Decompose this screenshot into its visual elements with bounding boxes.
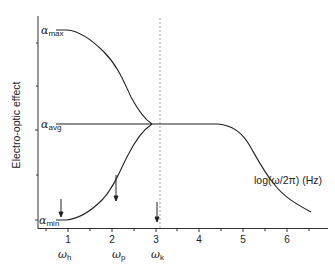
y-axis-label: Electro-optic effect (10, 82, 22, 169)
axes: 1 2 3 4 5 6 (35, 16, 328, 245)
alpha-avg-label: αavg (41, 118, 61, 132)
x-tick-1: 1 (65, 234, 71, 245)
x-tick-4: 4 (196, 234, 202, 245)
x-tick-3: 3 (153, 234, 159, 245)
x-tick-labels: 1 2 3 4 5 6 (65, 234, 290, 245)
omega-h-arrow (59, 199, 63, 217)
omega-h-label: ωh (58, 248, 71, 262)
omega-p-label: ωp (112, 248, 126, 262)
x-tick-2: 2 (109, 234, 115, 245)
x-tick-6: 6 (284, 234, 290, 245)
lower-branch-curve (56, 124, 152, 220)
level-labels: αmax αavg αmin (39, 24, 64, 228)
omega-labels: ωh ωp ωk (58, 248, 165, 262)
curves (56, 30, 311, 220)
x-tick-5: 5 (240, 234, 246, 245)
omega-p-arrow (114, 175, 118, 201)
chart: 1 2 3 4 5 6 log(ω/2π) (Hz) Electro-optic… (0, 0, 335, 272)
omega-k-arrow (155, 202, 159, 222)
avg-plateau-decay-curve (56, 124, 311, 212)
alpha-min-label: αmin (39, 214, 59, 228)
arrows (59, 175, 159, 222)
omega-k-label: ωk (151, 248, 165, 262)
upper-branch-curve (56, 30, 152, 124)
x-axis-label: log(ω/2π) (Hz) (254, 174, 322, 186)
alpha-max-label: αmax (41, 24, 64, 38)
